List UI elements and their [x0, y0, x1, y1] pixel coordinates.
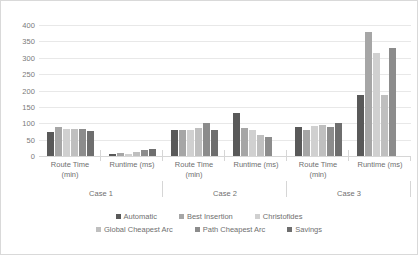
y-axis-tick: 0 — [31, 152, 35, 161]
bar-group — [287, 25, 349, 156]
category-label-line2: (min) — [163, 170, 225, 180]
legend-label: Automatic — [124, 212, 157, 221]
category-axis: Route Time(min)Runtime (ms)Route Time(mi… — [39, 157, 411, 183]
legend-swatch-icon — [179, 214, 184, 219]
legend-item[interactable]: Global Cheapest Arc — [96, 223, 173, 236]
bar[interactable] — [87, 131, 94, 156]
legend-row: Global Cheapest ArcPath Cheapest ArcSavi… — [47, 223, 371, 236]
bar[interactable] — [335, 123, 342, 156]
legend-label: Best Insertion — [187, 212, 233, 221]
category-label-line1: Runtime (ms) — [357, 160, 402, 169]
bar-group — [163, 25, 225, 156]
legend-item[interactable]: Path Cheapest Arc — [195, 223, 266, 236]
bar[interactable] — [241, 128, 248, 156]
bar[interactable] — [195, 128, 202, 156]
case-axis: Case 1Case 2Case 3 — [39, 184, 411, 206]
bar[interactable] — [389, 48, 396, 156]
bar[interactable] — [109, 154, 116, 156]
bar[interactable] — [47, 132, 54, 156]
bar[interactable] — [133, 152, 140, 156]
category-label: Runtime (ms) — [349, 157, 411, 183]
y-axis-tick: 350 — [22, 37, 35, 46]
bar[interactable] — [257, 135, 264, 156]
case-group-label: Case 2 — [163, 184, 287, 206]
case-group-label: Case 1 — [39, 184, 163, 206]
legend-swatch-icon — [96, 227, 101, 232]
legend-swatch-icon — [195, 227, 200, 232]
category-label-line2: (min) — [287, 170, 349, 180]
bar[interactable] — [55, 127, 62, 156]
axis-tick-mark — [410, 181, 411, 197]
category-label-line1: Route Time — [299, 160, 337, 169]
legend-swatch-icon — [255, 214, 260, 219]
axis-tick-mark — [410, 157, 411, 161]
category-label-line1: Route Time — [51, 160, 89, 169]
legend-swatch-icon — [287, 227, 292, 232]
bars-layer — [39, 25, 411, 156]
bar[interactable] — [211, 130, 218, 156]
y-axis-tick: 150 — [22, 102, 35, 111]
bar[interactable] — [187, 130, 194, 156]
bar[interactable] — [171, 130, 178, 156]
case-group-label-text: Case 1 — [89, 189, 113, 198]
bar[interactable] — [265, 137, 272, 156]
legend-item[interactable]: Automatic — [116, 210, 157, 223]
legend-item[interactable]: Savings — [287, 223, 322, 236]
y-axis-tick: 100 — [22, 119, 35, 128]
bar[interactable] — [249, 130, 256, 156]
y-axis-tick: 50 — [26, 135, 35, 144]
y-axis-tick: 250 — [22, 70, 35, 79]
bar-group — [39, 25, 101, 156]
category-label-line1: Runtime (ms) — [109, 160, 154, 169]
bar[interactable] — [303, 130, 310, 156]
legend-item[interactable]: Best Insertion — [179, 210, 233, 223]
bar-group — [101, 25, 163, 156]
category-label-line2: (min) — [39, 170, 101, 180]
bar[interactable] — [117, 153, 124, 156]
legend-label: Christofides — [263, 212, 303, 221]
bar-chart: 400350300250200150100500 Route Time(min)… — [0, 0, 418, 255]
bar[interactable] — [373, 53, 380, 156]
bar[interactable] — [295, 127, 302, 156]
bar-group — [349, 25, 411, 156]
legend-label: Global Cheapest Arc — [104, 225, 173, 234]
y-axis-tick: 400 — [22, 21, 35, 30]
legend-item[interactable]: Christofides — [255, 210, 303, 223]
bar[interactable] — [357, 95, 364, 156]
category-label-line1: Route Time — [175, 160, 213, 169]
plot-area — [39, 25, 411, 156]
bar[interactable] — [233, 113, 240, 156]
y-axis: 400350300250200150100500 — [1, 25, 35, 156]
bar[interactable] — [125, 154, 132, 156]
legend-label: Savings — [295, 225, 322, 234]
legend-row: AutomaticBest InsertionChristofides — [47, 210, 371, 223]
case-group-label-text: Case 3 — [337, 189, 361, 198]
category-label: Route Time(min) — [163, 157, 225, 183]
bar[interactable] — [141, 150, 148, 156]
bar[interactable] — [63, 129, 70, 156]
bar[interactable] — [179, 130, 186, 156]
category-label: Route Time(min) — [39, 157, 101, 183]
bar[interactable] — [149, 149, 156, 156]
legend-swatch-icon — [116, 214, 121, 219]
case-group-label-text: Case 2 — [213, 189, 237, 198]
bar[interactable] — [203, 123, 210, 156]
category-label: Runtime (ms) — [225, 157, 287, 183]
bar[interactable] — [365, 32, 372, 156]
bar-group — [225, 25, 287, 156]
bar[interactable] — [381, 95, 388, 156]
chart-legend: AutomaticBest InsertionChristofidesGloba… — [1, 210, 417, 236]
bar[interactable] — [311, 126, 318, 156]
category-label-line1: Runtime (ms) — [233, 160, 278, 169]
y-axis-tick: 200 — [22, 86, 35, 95]
legend-label: Path Cheapest Arc — [203, 225, 266, 234]
bar[interactable] — [319, 125, 326, 156]
case-group-label: Case 3 — [287, 184, 411, 206]
category-label: Route Time(min) — [287, 157, 349, 183]
y-axis-tick: 300 — [22, 53, 35, 62]
bar[interactable] — [327, 127, 334, 156]
bar[interactable] — [71, 129, 78, 156]
bar[interactable] — [79, 129, 86, 156]
category-label: Runtime (ms) — [101, 157, 163, 183]
